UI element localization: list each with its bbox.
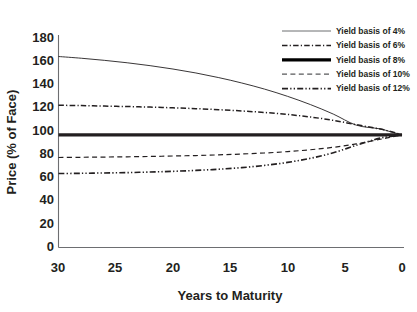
legend-label: Yield basis of 10%: [336, 69, 410, 79]
legend-label: Yield basis of 8%: [336, 55, 406, 65]
x-tick-25: 25: [108, 260, 122, 275]
y-tick-60: 60: [40, 169, 54, 184]
x-tick-0: 0: [398, 260, 405, 275]
y-tick-140: 140: [32, 76, 54, 91]
y-tick-80: 80: [40, 146, 54, 161]
y-tick-0: 0: [47, 239, 54, 254]
chart-container: Price (% of Face) 180 160 140 120 100 80…: [0, 0, 417, 312]
x-tick-10: 10: [281, 260, 295, 275]
y-axis-title: Price (% of Face): [4, 90, 19, 195]
y-tick-100: 100: [32, 123, 54, 138]
legend-label: Yield basis of 4%: [336, 26, 406, 36]
bond-price-line-chart: Price (% of Face) 180 160 140 120 100 80…: [0, 0, 417, 312]
x-tick-5: 5: [341, 260, 348, 275]
y-tick-20: 20: [40, 216, 54, 231]
y-tick-40: 40: [40, 192, 54, 207]
x-tick-30: 30: [51, 260, 65, 275]
y-tick-160: 160: [32, 53, 54, 68]
x-axis-title: Years to Maturity: [178, 288, 284, 303]
y-tick-120: 120: [32, 99, 54, 114]
x-tick-15: 15: [223, 260, 237, 275]
legend-label: Yield basis of 6%: [336, 40, 406, 50]
y-tick-180: 180: [32, 30, 54, 45]
x-tick-20: 20: [166, 260, 180, 275]
legend-label: Yield basis of 12%: [336, 83, 410, 93]
